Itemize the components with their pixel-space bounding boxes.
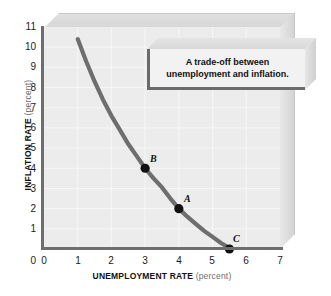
- callout-text: A trade-off between unemployment and inf…: [160, 56, 295, 80]
- x-tick-0: 0: [37, 256, 51, 266]
- point-label-B: B: [150, 153, 157, 164]
- x-tick-3: 3: [138, 256, 152, 266]
- y-tick-11: 11: [22, 22, 36, 32]
- callout-face: A trade-off between unemployment and inf…: [147, 49, 305, 90]
- y-tick-0: 0: [22, 256, 36, 266]
- phillips-curve-figure: 11 10 9 8 7 6 5 4 3 2 1 0 0 1 2 3 4 5 6 …: [0, 0, 331, 296]
- callout-annotation: A trade-off between unemployment and inf…: [147, 38, 319, 90]
- x-axis-title: UNEMPLOYMENT RATE (percent): [44, 271, 280, 281]
- x-tick-1: 1: [71, 256, 85, 266]
- y-axis-title-unit: (percent): [23, 80, 33, 116]
- callout-line-1: A trade-off between: [186, 57, 270, 67]
- x-tick-4: 4: [172, 256, 186, 266]
- x-axis-title-unit: (percent): [196, 271, 232, 281]
- data-point-A: [174, 204, 183, 213]
- x-tick-7: 7: [273, 256, 287, 266]
- point-label-C: C: [233, 233, 240, 244]
- x-axis-title-text: UNEMPLOYMENT RATE: [93, 271, 194, 281]
- y-axis-title: INFLATION RATE (percent): [23, 45, 33, 225]
- callout-right-bevel: [305, 38, 316, 90]
- callout-top-bevel: [147, 38, 316, 49]
- callout-line-2: unemployment and inflation.: [166, 69, 289, 79]
- x-tick-6: 6: [239, 256, 253, 266]
- x-axis-line: [41, 247, 283, 250]
- y-axis-title-text: INFLATION RATE: [23, 118, 33, 190]
- plot-slab-top-bevel: [44, 13, 295, 28]
- x-tick-2: 2: [104, 256, 118, 266]
- y-tick-1: 1: [22, 224, 36, 234]
- x-tick-5: 5: [205, 256, 219, 266]
- y-axis-line: [41, 26, 44, 250]
- point-label-A: A: [184, 193, 191, 204]
- data-point-B: [141, 164, 150, 173]
